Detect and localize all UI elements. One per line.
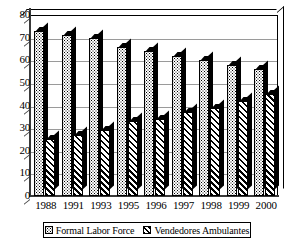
bar-vendedores-ambulantes-1996	[155, 119, 165, 196]
y-axis-tick-label: 20	[4, 145, 30, 156]
bar-formal-labor-force-1999	[227, 65, 237, 196]
y-axis-tick-label: 40	[4, 100, 30, 111]
y-axis-tick-label: 10	[4, 167, 30, 178]
hatched-square-icon	[143, 226, 151, 234]
y-axis-tick-label: 70	[4, 32, 30, 43]
bar-group	[140, 15, 168, 196]
bar-series-layer	[30, 15, 278, 196]
dotted-square-icon	[45, 226, 53, 234]
legend-entry-vendedores-ambulantes: Vendedores Ambulantes	[143, 225, 249, 236]
bar-vendedores-ambulantes-1988	[45, 139, 55, 196]
y-axis-tick-label: 50	[4, 77, 30, 88]
bar-group	[113, 15, 141, 196]
bar-group	[85, 15, 113, 196]
bar-formal-labor-force-1996	[144, 51, 154, 196]
bar-side-face	[274, 86, 279, 190]
legend-entry-formal-labor-force: Formal Labor Force	[45, 225, 135, 236]
bar-formal-labor-force-1998	[199, 60, 209, 196]
bar-vendedores-ambulantes-1993	[100, 130, 110, 196]
bar-formal-labor-force-1997	[172, 56, 182, 196]
bar-chart: 01020304050607080 1988199119931995199619…	[0, 0, 293, 242]
bar-group	[223, 15, 251, 196]
bar-group	[195, 15, 223, 196]
bar-formal-labor-force-1995	[117, 47, 127, 196]
bar-vendedores-ambulantes-1997	[183, 112, 193, 196]
x-axis-tick-labels: 198819911993199519961997199819992000	[30, 199, 282, 215]
bar-formal-labor-force-1993	[89, 38, 99, 196]
bar-formal-labor-force-1988	[34, 31, 44, 196]
y-axis-tick-label: 80	[4, 9, 30, 20]
y-axis-tick-label: 60	[4, 54, 30, 65]
bar-group	[250, 15, 278, 196]
bar-group	[58, 15, 86, 196]
bar-formal-labor-force-2000	[254, 69, 264, 196]
legend-label: Vendedores Ambulantes	[154, 225, 249, 236]
bar-vendedores-ambulantes-2000	[265, 94, 275, 196]
bar-group	[30, 15, 58, 196]
x-axis-tick-label-2000: 2000	[249, 199, 283, 212]
bar-vendedores-ambulantes-1991	[73, 135, 83, 196]
legend-label: Formal Labor Force	[56, 225, 135, 236]
chart-legend: Formal Labor ForceVendedores Ambulantes	[43, 222, 251, 238]
bar-vendedores-ambulantes-1998	[210, 108, 220, 196]
bar-formal-labor-force-1991	[62, 35, 72, 196]
y-axis-tick-label: 30	[4, 122, 30, 133]
bar-vendedores-ambulantes-1999	[238, 101, 248, 196]
y-axis-tick-label: 0	[4, 190, 30, 201]
bar-group	[168, 15, 196, 196]
bar-vendedores-ambulantes-1995	[128, 121, 138, 196]
